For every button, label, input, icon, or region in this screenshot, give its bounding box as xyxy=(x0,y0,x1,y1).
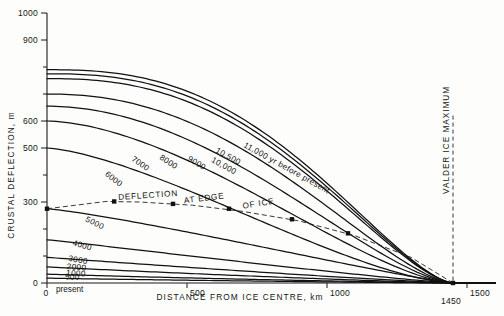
y-tick-label: 500 xyxy=(23,143,38,153)
caption-strip xyxy=(0,307,504,316)
curve-label: 6000 xyxy=(103,169,124,188)
crustal-deflection-chart: 03005006009001000 050010001500 VALDER IC… xyxy=(0,0,504,316)
valder-ice-maximum-label: VALDER ICE MAXIMUM xyxy=(442,86,451,194)
curve-label: 4000 xyxy=(72,238,93,252)
envelope-marker xyxy=(227,207,231,211)
y-tick-label: 600 xyxy=(23,116,38,126)
envelope-label-word: OF ICE xyxy=(242,197,275,211)
present-annotation: present xyxy=(56,285,84,294)
x-tick-label: 1000 xyxy=(330,288,350,298)
envelope-marker xyxy=(171,202,175,206)
x-tick-label: 1500 xyxy=(470,288,490,298)
curve-label: 7000 xyxy=(130,154,151,173)
curve-label: 9000 xyxy=(186,154,208,172)
envelope-marker xyxy=(45,207,49,211)
curve-label: 5000 xyxy=(84,215,106,232)
x-extra-tick-label: 1450 xyxy=(441,296,461,306)
envelope-marker xyxy=(290,217,294,221)
x-axis-title: DISTANCE FROM ICE CENTRE, km xyxy=(156,292,323,302)
envelope-marker xyxy=(346,231,350,235)
y-tick-label: 1000 xyxy=(18,8,38,18)
y-tick-label: 900 xyxy=(23,35,38,45)
y-tick-label: 0 xyxy=(33,278,38,288)
y-axis-ticks: 03005006009001000 xyxy=(18,8,47,288)
envelope-marker xyxy=(112,199,116,203)
figure-container: 03005006009001000 050010001500 VALDER IC… xyxy=(0,0,504,316)
curve-label: 500 xyxy=(65,272,80,282)
curve-label-group: 11,000 yr before present10,50010,0009000… xyxy=(65,141,332,282)
y-tick-label: 300 xyxy=(23,197,38,207)
envelope-label-word: DEFLECTION xyxy=(118,189,178,202)
x-axis-extra-ticks: 1450 xyxy=(441,296,461,306)
x-tick-label: 0 xyxy=(43,288,48,298)
y-axis-title: CRUSTAL DEFLECTION, m xyxy=(6,111,16,238)
deflection-at-edge-envelope xyxy=(45,199,455,285)
deflection-curve xyxy=(47,94,495,283)
valder-ice-maximum-group: VALDER ICE MAXIMUM xyxy=(442,86,453,283)
